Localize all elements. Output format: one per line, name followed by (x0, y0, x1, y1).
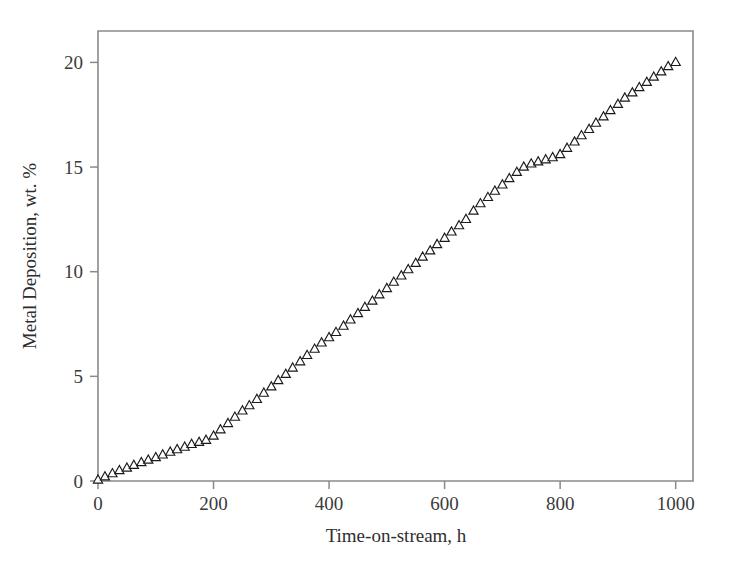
data-point-marker (671, 57, 680, 65)
data-point-marker (187, 439, 196, 447)
x-tick-label: 0 (93, 493, 103, 514)
y-axis-title: Metal Deposition, wt. % (19, 163, 40, 349)
data-point-marker (317, 338, 326, 346)
y-tick-label: 20 (64, 52, 83, 73)
plot-frame (98, 31, 693, 481)
data-point-marker (635, 82, 644, 90)
figure-container: 02004006008001000 05101520 Time-on-strea… (0, 0, 744, 568)
x-tick-label: 400 (315, 493, 344, 514)
y-axis-tick-labels: 05101520 (64, 52, 83, 492)
y-tick-label: 10 (64, 261, 83, 282)
axes-frame (98, 31, 693, 481)
metal-deposition-chart: 02004006008001000 05101520 Time-on-strea… (0, 0, 744, 568)
x-tick-label: 600 (430, 493, 459, 514)
data-series-markers (93, 57, 680, 483)
data-point-marker (620, 93, 629, 101)
y-axis-ticks (90, 62, 98, 481)
y-tick-label: 15 (64, 157, 83, 178)
data-point-marker (461, 214, 470, 222)
y-tick-label: 0 (74, 471, 84, 492)
x-axis-title: Time-on-stream, h (326, 525, 467, 546)
x-axis-ticks (98, 481, 676, 489)
x-tick-label: 1000 (657, 493, 695, 514)
y-tick-label: 5 (74, 366, 84, 387)
data-point-marker (534, 157, 543, 165)
x-axis-tick-labels: 02004006008001000 (93, 493, 694, 514)
x-tick-label: 800 (546, 493, 575, 514)
data-point-marker (649, 72, 658, 80)
x-tick-label: 200 (199, 493, 228, 514)
